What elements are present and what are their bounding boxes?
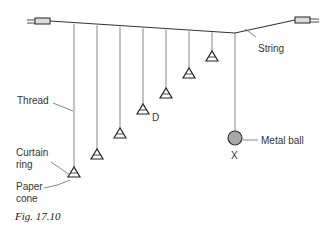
paper-cone-icon [137,104,149,114]
figure-caption: Fig. 17.10 [14,210,61,222]
thread-leader [53,103,73,111]
label-curtain-ring-line1: Curtain [16,147,48,158]
right-clamp-icon [295,17,319,23]
pendulum-d [137,28,149,114]
label-paper-cone-line2: cone [16,193,38,204]
pendulum-2 [91,25,103,159]
label-x: X [231,150,238,161]
label-d: D [152,112,159,123]
paper-cone-icon [183,68,195,78]
paper-cone-icon [68,167,80,177]
pendulum-x [228,33,242,145]
pendulum-1 [68,24,80,177]
label-paper-cone-line1: Paper [16,181,43,192]
pendulum-5 [160,30,172,98]
pendulum-6 [183,31,195,78]
curtain-ring-leader [51,162,70,175]
pendulum-7 [206,32,218,61]
paper-cone-icon [91,149,103,159]
left-clamp-icon [27,18,50,24]
metal-ball-icon [228,131,242,145]
paper-cone-icon [206,51,218,61]
paper-cone-icon [160,88,172,98]
label-curtain-ring-line2: ring [16,159,33,170]
label-string: String [258,43,284,54]
pendulum-3 [114,27,126,138]
paper-cone-leader [44,180,70,188]
string [50,20,295,33]
barton-pendulums-diagram: String Thread D Metal ball X Curtain rin… [0,0,332,234]
label-metal-ball: Metal ball [261,135,304,146]
paper-cone-icon [114,128,126,138]
label-thread: Thread [17,95,49,106]
